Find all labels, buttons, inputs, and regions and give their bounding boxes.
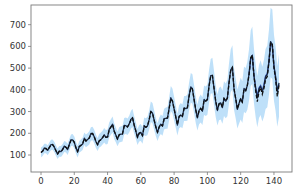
x-tick-label: 100 xyxy=(199,176,215,186)
confidence-band xyxy=(41,8,279,159)
y-tick-label: 400 xyxy=(10,85,26,95)
y-tick-label: 100 xyxy=(10,150,26,160)
x-tick-label: 40 xyxy=(102,176,113,186)
y-tick-label: 600 xyxy=(10,41,26,51)
y-tick-label: 200 xyxy=(10,128,26,138)
x-tick-label: 140 xyxy=(266,176,282,186)
y-tick-label: 700 xyxy=(10,20,26,30)
y-tick-label: 500 xyxy=(10,63,26,73)
x-tick-label: 120 xyxy=(233,176,249,186)
time-series-chart: 020406080100120140 100200300400500600700 xyxy=(0,0,298,189)
y-tick-label: 300 xyxy=(10,107,26,117)
x-tick-label: 0 xyxy=(38,176,43,186)
y-axis-ticks: 100200300400500600700 xyxy=(10,20,31,160)
x-axis-ticks: 020406080100120140 xyxy=(38,172,282,186)
prediction-dashed-line xyxy=(41,43,279,154)
x-tick-label: 60 xyxy=(135,176,146,186)
x-tick-label: 80 xyxy=(169,176,180,186)
x-tick-label: 20 xyxy=(69,176,80,186)
plot-area xyxy=(41,8,279,159)
